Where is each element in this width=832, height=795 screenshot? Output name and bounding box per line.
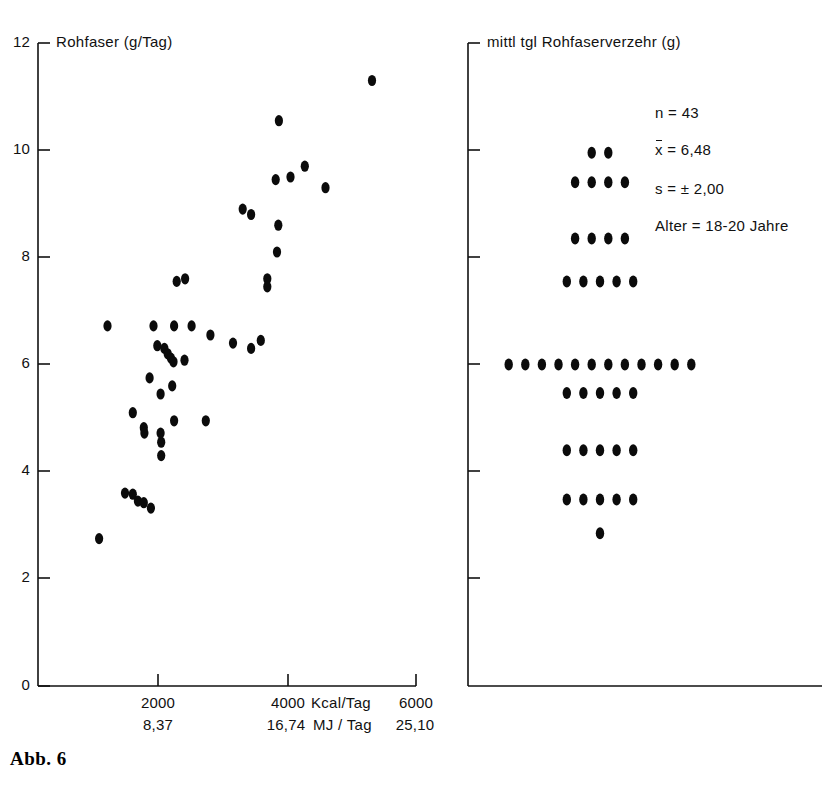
scatter-point bbox=[188, 320, 196, 331]
scatter-point bbox=[121, 488, 129, 499]
y-tick-label-12: 12 bbox=[2, 33, 30, 50]
dotplot-dot bbox=[563, 387, 571, 399]
y-tick-label-2: 2 bbox=[2, 568, 30, 585]
scatter-point bbox=[321, 182, 329, 193]
dotplot-dot bbox=[612, 275, 620, 287]
scatter-point bbox=[275, 115, 283, 126]
scatter-point bbox=[181, 273, 189, 284]
y-tick-label-6: 6 bbox=[2, 354, 30, 371]
dotplot-dot bbox=[563, 444, 571, 456]
dotplot-dot-group bbox=[505, 147, 696, 540]
stat-n: n = 43 bbox=[655, 104, 699, 121]
dotplot-dot bbox=[621, 233, 629, 245]
mean-value: = 6,48 bbox=[663, 141, 711, 158]
dotplot-dot bbox=[629, 444, 637, 456]
dotplot-dot bbox=[629, 494, 637, 506]
dotplot-dot bbox=[571, 359, 579, 371]
scatter-point bbox=[129, 407, 137, 418]
dotplot-dot bbox=[579, 387, 587, 399]
dotplot-dot bbox=[596, 494, 604, 506]
dotplot-dot bbox=[629, 387, 637, 399]
dotplot-dot bbox=[604, 176, 612, 188]
dotplot-dot bbox=[571, 176, 579, 188]
dotplot-dot bbox=[563, 494, 571, 506]
y-tick-label-4: 4 bbox=[2, 461, 30, 478]
y-tick-label-10: 10 bbox=[2, 140, 30, 157]
dotplot-dot bbox=[612, 387, 620, 399]
dotplot-dot bbox=[538, 359, 546, 371]
dotplot-dot bbox=[604, 359, 612, 371]
dotplot-dot bbox=[596, 275, 604, 287]
scatter-point bbox=[147, 503, 155, 514]
dotplot-dot bbox=[596, 444, 604, 456]
dotplot-dot bbox=[579, 275, 587, 287]
dotplot-dot bbox=[637, 359, 645, 371]
dotplot-dot bbox=[687, 359, 695, 371]
dotplot-dot bbox=[579, 494, 587, 506]
figure-caption: Abb. 6 bbox=[10, 748, 67, 770]
dotplot-dot bbox=[588, 147, 596, 159]
dotplot-dot bbox=[588, 176, 596, 188]
y-tick-label-8: 8 bbox=[2, 247, 30, 264]
scatter-point bbox=[157, 428, 165, 439]
scatter-point bbox=[263, 281, 271, 292]
scatter-point bbox=[173, 276, 181, 287]
scatter-point bbox=[140, 428, 148, 439]
stat-age: Alter = 18-20 Jahre bbox=[655, 217, 789, 234]
x-tick-label-mj-25-10: 25,10 bbox=[375, 716, 455, 733]
scatter-point bbox=[247, 209, 255, 220]
dotplot-dot bbox=[554, 359, 562, 371]
scatter-point bbox=[168, 380, 176, 391]
scatter-point bbox=[157, 450, 165, 461]
scatter-point bbox=[157, 388, 165, 399]
scatter-point bbox=[170, 320, 178, 331]
y-tick-label-0: 0 bbox=[2, 676, 30, 693]
scatter-point bbox=[229, 338, 237, 349]
scatter-point bbox=[149, 320, 157, 331]
dotplot-dot bbox=[588, 233, 596, 245]
scatter-point bbox=[170, 415, 178, 426]
dotplot-dot bbox=[596, 527, 604, 539]
scatter-point bbox=[257, 335, 265, 346]
dotplot-dot bbox=[621, 359, 629, 371]
scatter-point bbox=[301, 161, 309, 172]
chart-canvas bbox=[0, 0, 832, 795]
stat-sd: s = ± 2,00 bbox=[655, 180, 724, 197]
x-tick-label-2000: 2000 bbox=[118, 694, 198, 711]
scatter-point bbox=[272, 174, 280, 185]
scatter-point bbox=[273, 246, 281, 257]
scatter-point bbox=[153, 340, 161, 351]
dotplot-dot bbox=[571, 233, 579, 245]
dotplot-dot bbox=[612, 444, 620, 456]
dotplot-y-ticks bbox=[468, 43, 480, 578]
x-tick-label-mj-8-37: 8,37 bbox=[118, 716, 198, 733]
scatter-point bbox=[239, 204, 247, 215]
x-tick-label-6000: 6000 bbox=[376, 694, 456, 711]
x-axis-unit-mj: MJ / Tag bbox=[313, 716, 372, 733]
dotplot-dot bbox=[612, 494, 620, 506]
dotplot-dot bbox=[521, 359, 529, 371]
scatter-point bbox=[140, 497, 148, 508]
scatter-point bbox=[95, 533, 103, 544]
scatter-axis-title: Rohfaser (g/Tag) bbox=[56, 33, 173, 50]
scatter-point bbox=[286, 171, 294, 182]
dotplot-dot bbox=[604, 233, 612, 245]
mean-symbol: x bbox=[655, 141, 663, 158]
scatter-point bbox=[206, 329, 214, 340]
x-axis-unit-kcal: Kcal/Tag bbox=[311, 694, 371, 711]
dotplot-dot bbox=[563, 275, 571, 287]
dotplot-dot bbox=[604, 147, 612, 159]
dotplot-dot bbox=[671, 359, 679, 371]
stat-mean: x = 6,48 bbox=[655, 141, 711, 158]
scatter-point bbox=[247, 343, 255, 354]
dotplot-dot bbox=[621, 176, 629, 188]
dotplot-dot bbox=[629, 275, 637, 287]
dotplot-axis-title: mittl tgl Rohfaserverzehr (g) bbox=[487, 33, 681, 50]
scatter-point bbox=[274, 220, 282, 231]
scatter-point bbox=[202, 415, 210, 426]
dotplot-dot bbox=[596, 387, 604, 399]
figure-abb-6: Rohfaser (g/Tag) 12 10 8 6 4 2 0 2000 40… bbox=[0, 0, 832, 795]
dotplot-dot bbox=[579, 444, 587, 456]
scatter-point bbox=[146, 372, 154, 383]
scatter-point bbox=[103, 320, 111, 331]
